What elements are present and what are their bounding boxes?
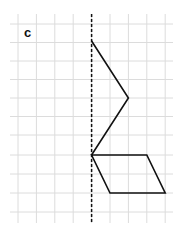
figure-label: c — [24, 25, 31, 40]
